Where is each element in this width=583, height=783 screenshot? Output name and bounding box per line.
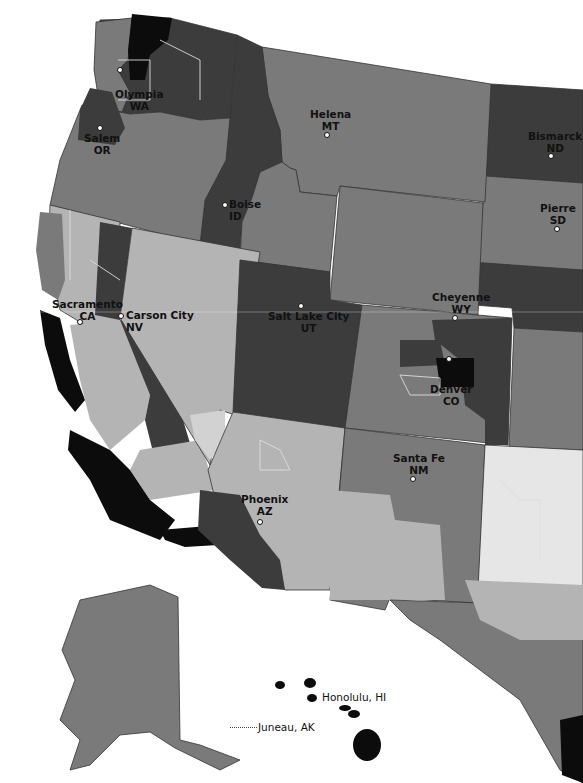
capital-label-santa-fe: Santa Fe NM: [393, 452, 445, 476]
district-tx-southeast-dark: [560, 715, 583, 783]
capital-label-boise: Boise ID: [229, 198, 261, 222]
inset-label-honolulu: Honolulu, HI: [322, 691, 386, 703]
capital-marker-salem: [97, 125, 103, 131]
district-map: [0, 0, 583, 783]
capital-marker-sacramento: [77, 319, 83, 325]
capital-marker-helena: [324, 132, 330, 138]
state-ks: [509, 328, 583, 450]
capital-label-carson-city: Carson City NV: [126, 309, 194, 333]
district-ca-nw: [36, 212, 65, 300]
inset-label-juneau: Juneau, AK: [258, 721, 315, 733]
capital-label-salt-lake-city: Salt Lake City UT: [268, 310, 349, 334]
capital-marker-denver: [446, 356, 452, 362]
capital-label-denver: Denver CO: [430, 383, 472, 407]
capital-marker-phoenix: [257, 519, 263, 525]
capital-label-phoenix: Phoenix AZ: [241, 493, 288, 517]
capital-label-sacramento: Sacramento CA: [52, 298, 123, 322]
capital-label-pierre: Pierre SD: [540, 202, 576, 226]
capital-label-helena: Helena MT: [310, 108, 351, 132]
capital-marker-bismarck: [548, 153, 554, 159]
capital-label-bismarck: Bismarck ND: [528, 130, 582, 154]
juneau-leader-line: [230, 727, 257, 728]
capital-marker-santa-fe: [410, 476, 416, 482]
capital-marker-cheyenne: [452, 315, 458, 321]
state-ak: [60, 585, 240, 770]
capital-label-olympia: Olympia WA: [115, 88, 164, 112]
capital-marker-pierre: [554, 226, 560, 232]
capital-marker-carson-city: [118, 313, 124, 319]
state-ok-tx: [478, 445, 583, 590]
capital-label-cheyenne: Cheyenne WY: [432, 291, 490, 315]
capital-label-salem: Salem OR: [84, 132, 120, 156]
capital-marker-salt-lake-city: [298, 303, 304, 309]
capital-marker-olympia: [117, 67, 123, 73]
capital-marker-boise: [222, 202, 228, 208]
